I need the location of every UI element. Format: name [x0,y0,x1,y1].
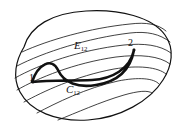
label-c12: C12 [66,84,80,96]
label-e12: E12 [74,40,87,52]
label-c12-subscript: 12 [73,89,80,96]
label-point-1: 1 [29,73,34,83]
figure-container: E12 C12 1 2 [0,0,184,131]
label-point-2: 2 [128,38,133,48]
endpoint-marker-2 [133,49,136,52]
label-e12-base: E [74,39,81,51]
diagram-canvas [0,0,184,131]
label-e12-subscript: 12 [81,45,88,52]
region-boundary-outline [16,11,172,121]
